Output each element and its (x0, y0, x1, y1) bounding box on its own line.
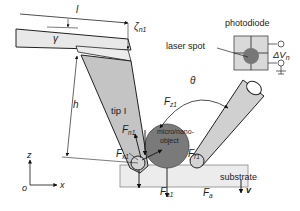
afm-manipulation-diagram: l ζn1 γ h θ tip I photodiode laser spot … (0, 0, 300, 211)
label-theta: θ (190, 75, 196, 86)
tip-right (190, 78, 264, 168)
label-axis-x: x (59, 180, 65, 190)
label-height: h (73, 99, 79, 110)
cantilever (16, 29, 131, 61)
length-dimension (20, 14, 128, 23)
label-deflection: ζn1 (134, 21, 147, 33)
label-object: micro/nano- (157, 128, 195, 135)
label-tip-i: tip I (111, 105, 126, 116)
label-length: l (76, 4, 79, 15)
label-object-line2: object (160, 137, 179, 145)
label-substrate: substrate (220, 172, 257, 182)
label-photodiode: photodiode (225, 18, 270, 28)
label-axis-z: z (26, 150, 32, 160)
label-fz1: Fz1 (164, 96, 177, 108)
label-fa: Fa (203, 187, 213, 199)
label-origin: o (22, 183, 27, 193)
label-delta-v: ΔVn (272, 49, 290, 61)
label-velocity: v (246, 185, 252, 195)
label-laser-spot: laser spot (166, 41, 206, 51)
